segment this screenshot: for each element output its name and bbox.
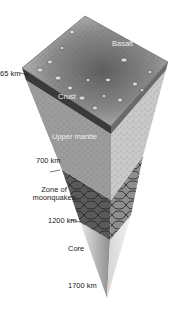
crust-label: Crust (58, 93, 76, 101)
moonquake-zone-label: Zone of moonquakes (30, 186, 78, 202)
depth-700-label: 700 km (36, 157, 61, 165)
basalt-label: Basalt (112, 40, 133, 48)
depth-1700-label: 1700 km (68, 282, 97, 290)
depth-65-label: 65 km (0, 70, 20, 78)
core-label: Core (68, 245, 84, 253)
depth-1200-label: 1200 km (48, 217, 77, 225)
upper-mantle-label: Upper mantle (52, 133, 97, 141)
moon-wedge-diagram (0, 0, 178, 309)
moonquake-label-line2: moonquakes (30, 194, 78, 202)
